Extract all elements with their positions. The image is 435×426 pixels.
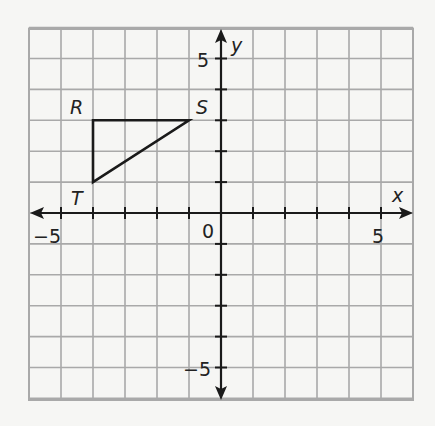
x-axis-label: x <box>391 184 404 206</box>
origin-label: 0 <box>202 220 214 242</box>
vertex-label-r: R <box>70 96 83 118</box>
y-tick-label-neg5: −5 <box>183 358 211 380</box>
x-tick-label-5: 5 <box>372 225 384 247</box>
coordinate-plane: x y 0 −5 5 5 −5 R S T <box>0 0 435 426</box>
x-tick-label-neg5: −5 <box>33 225 61 247</box>
y-axis-label: y <box>230 34 243 56</box>
vertex-label-t: T <box>71 187 84 209</box>
vertex-label-s: S <box>196 96 208 118</box>
y-tick-label-5: 5 <box>197 49 209 71</box>
